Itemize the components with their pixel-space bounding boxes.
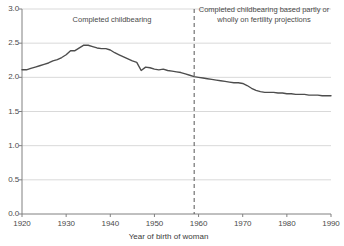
x-axis-title: Year of birth of woman [0, 232, 337, 241]
x-tick-label: 1950 [139, 219, 169, 228]
y-tick-label: 0.0 [0, 209, 19, 218]
x-tick-label: 1970 [228, 219, 258, 228]
y-tick-label: 0.5 [0, 175, 19, 184]
y-tick-label: 3.0 [0, 4, 19, 13]
x-tick-label: 1990 [316, 219, 344, 228]
gridlines-group [22, 9, 331, 180]
y-tick-label: 1.5 [0, 107, 19, 116]
projected-childbearing-annotation: Completed childbearing based partly or w… [193, 5, 335, 25]
completed-childbearing-annotation: Completed childbearing [42, 15, 182, 25]
y-tick-label: 1.0 [0, 141, 19, 150]
y-tick-label: 2.0 [0, 72, 19, 81]
x-tick-label: 1920 [7, 219, 37, 228]
x-tick-label: 1930 [51, 219, 81, 228]
x-tick-label: 1940 [95, 219, 125, 228]
y-tick-label: 2.5 [0, 38, 19, 47]
x-tick-label: 1980 [272, 219, 302, 228]
x-tick-label: 1960 [184, 219, 214, 228]
data-series-line [22, 45, 331, 96]
